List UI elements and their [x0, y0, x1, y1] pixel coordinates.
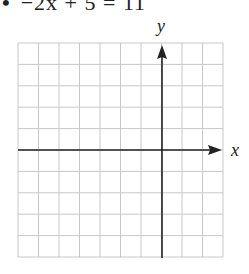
x-axis-label: x — [230, 140, 239, 160]
y-axis-label: y — [155, 16, 165, 36]
x-axis-arrow-icon — [208, 145, 222, 155]
coordinate-grid: x y — [0, 0, 249, 274]
y-axis-arrow-icon — [157, 45, 167, 59]
y-axis — [157, 45, 167, 258]
